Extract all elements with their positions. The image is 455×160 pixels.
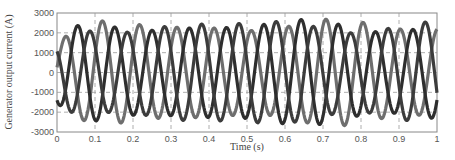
y-axis-label: Generator output current (A) (3, 14, 15, 129)
y-tick-label: -2000 (31, 107, 54, 117)
x-tick-label: 0.9 (393, 134, 406, 144)
y-axis-ticks: 3000200010000-1000-2000-3000 (31, 8, 54, 137)
x-tick-label: 0.7 (317, 134, 330, 144)
y-tick-label: -1000 (31, 87, 54, 97)
x-tick-label: 0.3 (165, 134, 178, 144)
x-axis-label: Time (s) (230, 141, 264, 153)
y-tick-label: 1000 (34, 48, 54, 58)
x-tick-label: 1 (434, 134, 439, 144)
x-tick-label: 0.4 (203, 134, 216, 144)
x-tick-label: 0.1 (89, 134, 102, 144)
y-tick-label: 3000 (34, 8, 54, 18)
y-tick-label: 0 (49, 68, 54, 78)
x-tick-label: 0.2 (127, 134, 140, 144)
x-tick-label: 0.6 (279, 134, 292, 144)
y-tick-label: 2000 (34, 28, 54, 38)
y-tick-label: -3000 (31, 127, 54, 137)
current-chart: 00.10.20.30.40.50.60.70.80.91 3000200010… (0, 0, 455, 160)
x-tick-label: 0 (54, 134, 59, 144)
x-tick-label: 0.8 (355, 134, 368, 144)
